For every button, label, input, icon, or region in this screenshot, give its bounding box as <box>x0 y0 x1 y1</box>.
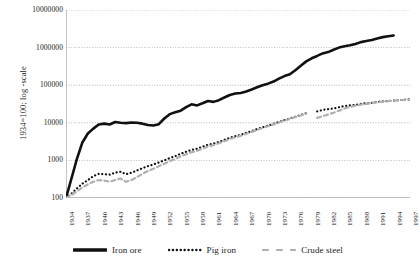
x-tick-label: 1988 <box>364 212 371 226</box>
y-tick-label: 10000 <box>3 119 63 127</box>
x-tick-label: 1958 <box>200 212 207 226</box>
x-tick-label: 1976 <box>298 212 305 226</box>
legend-label: Iron ore <box>112 245 142 255</box>
x-axis-tick-labels: 1934193719401943194619491952195519581961… <box>66 200 410 238</box>
x-tick-label: 1997 <box>413 212 420 226</box>
legend-swatch <box>73 245 107 255</box>
x-tick-label: 1940 <box>102 212 109 226</box>
legend-item[interactable]: Crude steel <box>262 245 343 255</box>
x-tick-label: 1964 <box>233 212 240 226</box>
y-tick-label: 1000000 <box>3 44 63 52</box>
plot-area <box>66 10 410 198</box>
legend-item[interactable]: Pig iron <box>168 245 237 255</box>
x-tick-label: 1967 <box>249 212 256 226</box>
series-line-iron-ore <box>66 35 394 198</box>
legend-label: Crude steel <box>301 245 343 255</box>
x-tick-label: 1949 <box>151 212 158 226</box>
x-tick-label: 1973 <box>282 212 289 226</box>
x-tick-label: 1991 <box>380 212 387 226</box>
series-line-pig-iron <box>66 113 306 198</box>
y-tick-label: 1000 <box>3 156 63 164</box>
x-tick-label: 1994 <box>397 212 404 226</box>
legend-swatch <box>262 245 296 255</box>
x-tick-label: 1985 <box>347 212 354 226</box>
x-tick-label: 1982 <box>331 212 338 226</box>
x-tick-label: 1943 <box>118 212 125 226</box>
x-tick-label: 1970 <box>266 212 273 226</box>
y-tick-label: 100 <box>3 194 63 202</box>
y-axis-tick-labels: 100000001000000100000100001000100 <box>0 0 63 200</box>
series-line-crude-steel <box>66 114 306 198</box>
x-tick-label: 1946 <box>135 212 142 226</box>
plot-svg <box>66 10 410 198</box>
legend-swatch <box>168 245 202 255</box>
x-tick-label: 1952 <box>167 212 174 226</box>
x-tick-label: 1955 <box>184 212 191 226</box>
y-tick-label: 100000 <box>3 81 63 89</box>
legend-label: Pig iron <box>207 245 237 255</box>
chart-legend: Iron orePig ironCrude steel <box>0 240 416 260</box>
x-tick-label: 1979 <box>315 212 322 226</box>
x-tick-label: 1937 <box>85 212 92 226</box>
y-tick-label: 10000000 <box>3 6 63 14</box>
x-tick-label: 1961 <box>216 212 223 226</box>
x-tick-label: 1934 <box>69 212 76 226</box>
legend-item[interactable]: Iron ore <box>73 245 142 255</box>
